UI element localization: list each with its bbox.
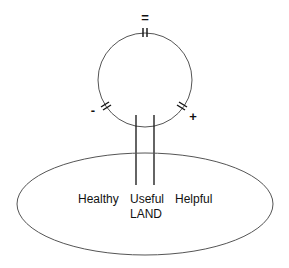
top-marker-label: =	[141, 10, 149, 25]
land-label: LAND	[130, 207, 162, 221]
word-healthy: Healthy	[78, 192, 119, 206]
right-marker-label: +	[189, 109, 197, 124]
diagram-canvas: = - + Healthy Useful Helpful LAND	[0, 0, 289, 268]
word-helpful: Helpful	[175, 192, 212, 206]
loop-circle	[98, 33, 192, 127]
left-marker-label: -	[91, 103, 95, 118]
word-useful: Useful	[130, 192, 164, 206]
